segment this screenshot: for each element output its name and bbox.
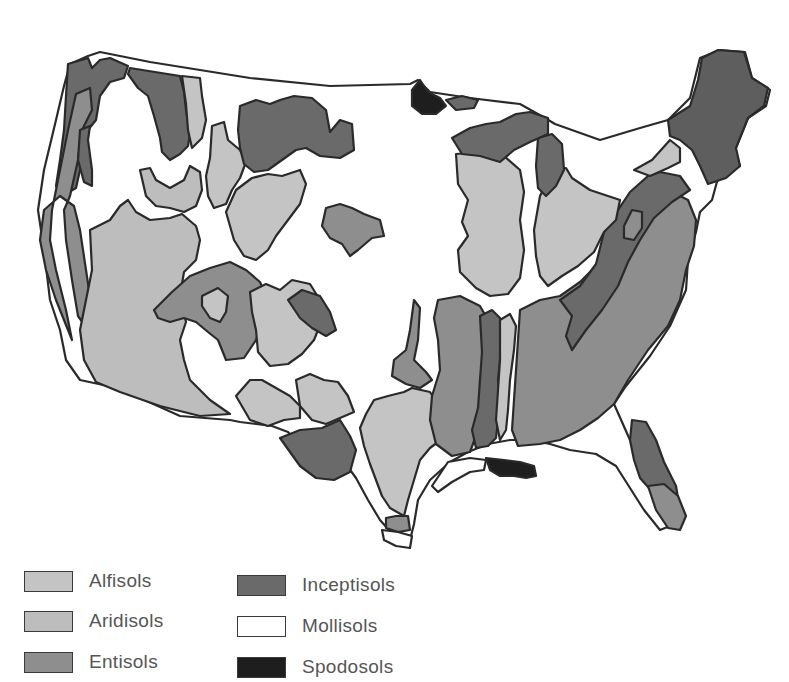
legend-item-spodosols: Spodosols bbox=[237, 652, 393, 682]
swatch-inceptisols bbox=[237, 575, 286, 596]
legend-label: Spodosols bbox=[302, 656, 393, 678]
legend-item-mollisols: Mollisols bbox=[237, 611, 378, 641]
legend-item-entisols: Entisols bbox=[24, 647, 158, 677]
soil-map bbox=[0, 0, 789, 560]
swatch-mollisols bbox=[237, 616, 286, 637]
swatch-spodosols bbox=[237, 657, 286, 678]
swatch-aridisols bbox=[24, 611, 73, 632]
region-entisols-south-texas bbox=[386, 516, 410, 532]
legend: Alfisols Aridisols Entisols Inceptisols … bbox=[0, 560, 789, 677]
swatch-alfisols bbox=[24, 571, 73, 592]
region-alfisols-wisconsin bbox=[456, 152, 524, 296]
legend-label: Aridisols bbox=[89, 610, 164, 632]
legend-label: Inceptisols bbox=[302, 574, 395, 596]
region-spodosols-louisiana bbox=[486, 458, 536, 478]
swatch-entisols bbox=[24, 652, 73, 673]
legend-label: Entisols bbox=[89, 651, 158, 673]
legend-label: Alfisols bbox=[89, 570, 152, 592]
legend-label: Mollisols bbox=[302, 615, 378, 637]
legend-item-inceptisols: Inceptisols bbox=[237, 570, 395, 600]
legend-item-aridisols: Aridisols bbox=[24, 606, 164, 636]
legend-item-alfisols: Alfisols bbox=[24, 566, 152, 596]
